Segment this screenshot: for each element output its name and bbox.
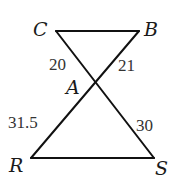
length-label-ra: 31.5 [8,113,38,132]
vertex-label-r: R [8,154,23,176]
vertex-label-a: A [64,76,80,98]
segment-br [31,31,139,158]
vertex-label-s: S [155,157,168,179]
vertex-label-c: C [33,18,48,40]
triangle-diagram: C B A R S 20 21 31.5 30 [0,0,174,191]
length-label-ba: 21 [118,56,135,75]
length-label-sa: 30 [136,116,153,135]
vertex-label-b: B [143,18,158,40]
length-label-ca: 20 [49,55,66,74]
